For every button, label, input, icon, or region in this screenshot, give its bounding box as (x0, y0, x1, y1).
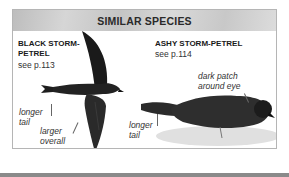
page-bottom-rule (0, 173, 289, 177)
black-larger-overall-label: larger overall (40, 127, 65, 146)
label-line-2: around eye (198, 82, 241, 92)
ashy-tail-leader-line (157, 114, 158, 126)
black-tail-leader-line (51, 104, 52, 116)
black-storm-petrel-page-ref: see p.113 (18, 60, 55, 70)
similar-species-panel: SIMILAR SPECIES BLACK STORM- PETREL see … (12, 9, 277, 149)
ashy-dark-patch-label: dark patch around eye (198, 72, 241, 91)
label-line-2: overall (40, 137, 65, 147)
black-longer-tail-label: longer tail (19, 108, 43, 127)
ashy-storm-petrel-page-ref: see p.114 (155, 49, 192, 59)
name-line-2: PETREL (18, 49, 80, 59)
ashy-storm-petrel-name: ASHY STORM-PETREL (155, 39, 242, 49)
label-line-2: tail (129, 131, 153, 141)
black-storm-petrel-name: BLACK STORM- PETREL (18, 39, 80, 59)
name-line-1: BLACK STORM- (18, 39, 80, 49)
ashy-longer-tail-label: longer tail (129, 121, 153, 140)
